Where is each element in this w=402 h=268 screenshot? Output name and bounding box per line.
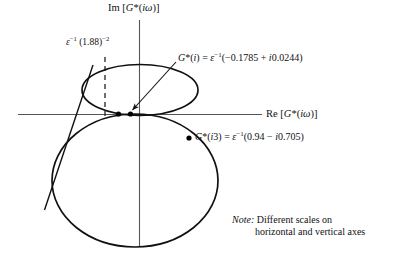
marker-dot-g-star-i [128,111,133,116]
epsilon-tick-annotation: ε−1 (1.88)−2 [66,37,109,48]
g-star-i-annotation: G*(i) = ε−1(−0.1785 + i0.0244) [178,52,302,64]
imaginary-axis-label: Im [G*(iω)] [108,2,159,14]
marker-dot-g-star-i3 [186,135,191,140]
locus-lower-lobe [52,114,218,247]
real-axis-label: Re [G*(iω)] [266,108,317,120]
note-line-2: horizontal and vertical axes [255,226,365,238]
figure-note: Note: Different scales on horizontal and… [232,214,365,237]
g-star-i3-annotation: G*(i3) = ε−1(0.94 − i0.705) [195,131,304,143]
marker-dot-crossing [116,111,121,116]
note-line-1: Different scales on [257,214,332,225]
note-prefix: Note: [232,214,254,225]
